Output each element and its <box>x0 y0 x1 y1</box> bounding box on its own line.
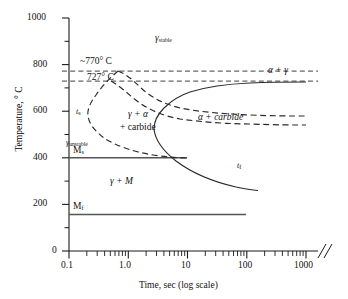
gamma-stable-subscript: stable <box>159 37 172 43</box>
label-770c: ~770° C <box>80 57 112 67</box>
gamma-m-text: γ + M <box>110 176 133 186</box>
y-minor-ticks <box>65 41 70 227</box>
x-tick-label-10: 10 <box>181 261 191 271</box>
label-alpha-carbide: α + carbide <box>198 113 243 123</box>
axis-break-icon <box>318 244 332 258</box>
tf-subscript: f <box>239 163 241 170</box>
label-ms: Ms <box>73 146 84 156</box>
x-tick-label-1p0: 1.0 <box>119 261 131 271</box>
mf-subscript: f <box>81 204 83 211</box>
label-tf: tf <box>237 162 241 171</box>
y-tick-label-200: 200 <box>33 199 47 209</box>
x-tick-label-0p1: 0.1 <box>61 261 73 271</box>
x-tick-label-1000: 1000 <box>294 261 313 271</box>
y-tick-label-600: 600 <box>33 106 47 116</box>
ms-subscript: s <box>81 148 83 155</box>
y-axis-title: Temperature, ° C <box>14 86 24 151</box>
label-mf: Mf <box>73 202 84 212</box>
ts-subscript: s <box>78 109 80 116</box>
axis-lines <box>69 18 318 251</box>
x-tick-label-100: 100 <box>238 261 252 271</box>
y-tick-label-800: 800 <box>33 60 47 70</box>
x-minor-ticks <box>87 251 303 256</box>
y-tick-label-400: 400 <box>33 153 47 163</box>
label-gamma-alpha: γ + α <box>128 110 148 120</box>
label-gamma-m: γ + M <box>110 177 133 187</box>
curve-tf <box>164 82 306 108</box>
label-plus-carbide: + carbide <box>120 123 156 133</box>
y-tick-label-0: 0 <box>52 246 57 256</box>
x-axis-title: Time, sec (log scale) <box>139 281 218 291</box>
alpha-carbide-text: α + carbide <box>198 112 243 122</box>
ttt-diagram: 1000 800 600 400 200 0 0.1 1.0 10 100 10… <box>0 0 348 299</box>
y-tick-label-1000: 1000 <box>27 13 46 23</box>
y-axis-title-wrap: Temperature, ° C <box>8 54 26 184</box>
label-ts: ts <box>76 108 81 117</box>
label-727c: 727° C <box>87 73 114 83</box>
label-gamma-stable: γstable <box>155 34 172 44</box>
label-alpha-gamma: α + γ <box>268 66 288 76</box>
